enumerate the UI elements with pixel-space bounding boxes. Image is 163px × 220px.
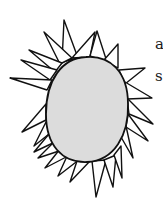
partial-text-line-1: a xyxy=(155,37,163,52)
egg-body xyxy=(46,57,128,162)
spiky-egg-illustration xyxy=(0,0,163,220)
partial-text-line-2: s xyxy=(155,69,163,84)
